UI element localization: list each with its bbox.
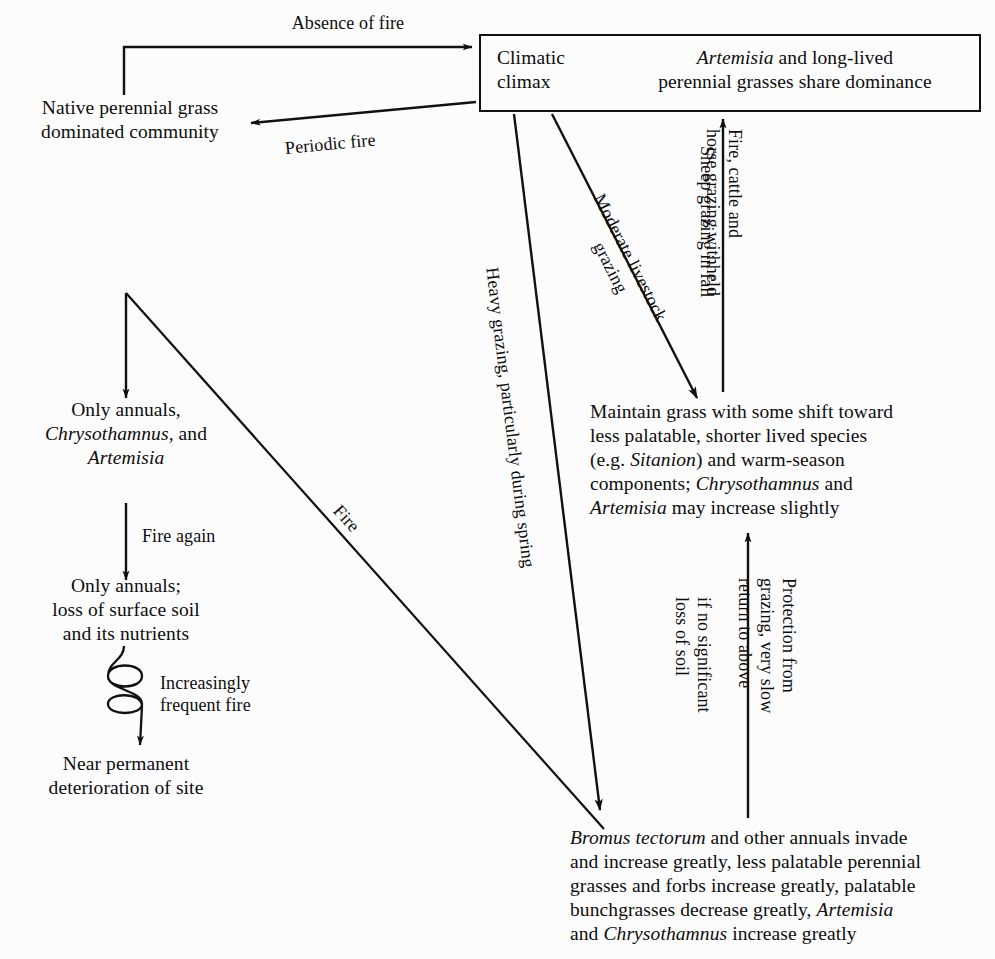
- edge-label-increasingly-frequent-fire: Increasingly frequent fire: [160, 672, 251, 716]
- near-permanent-deterioration-node: Near permanent deterioration of site: [6, 752, 246, 800]
- diagram-canvas: Climatic climax Artemisia and long-lived…: [0, 0, 995, 959]
- bromus-line3: grasses and forbs increase greatly, pala…: [570, 875, 915, 896]
- bromus-tectorum-italic: Bromus tectorum: [570, 827, 706, 848]
- climax-desc-line2: perennial grasses share dominance: [658, 71, 931, 92]
- climatic-climax-description: Artemisia and long-livedperennial grasse…: [620, 46, 970, 94]
- maintain-line1: Maintain grass with some shift toward: [590, 401, 893, 422]
- only-annuals-line1: Only annuals,: [71, 399, 181, 420]
- only-annuals-soil-loss-node: Only annuals; loss of surface soil and i…: [10, 574, 242, 646]
- edge-increasingly-frequent-fire: [108, 646, 142, 745]
- maintain-line3-a: (e.g.: [590, 449, 630, 470]
- climatic-climax-label: Climatic climax: [497, 46, 607, 94]
- sitanion-italic: Sitanion: [630, 449, 696, 470]
- chrysothamnus-italic-3: Chrysothamnus: [603, 923, 727, 944]
- maintain-line3-b: ) and warm-season: [696, 449, 845, 470]
- chrysothamnus-italic: Chrysothamnus: [45, 423, 169, 444]
- bromus-line4-a: bunchgrasses decrease greatly,: [570, 899, 817, 920]
- artemisia-italic-2: Artemisia: [88, 447, 165, 468]
- edge-absence-of-fire: [124, 47, 472, 95]
- edge-label-fire-cattle-horse-withheld: Fire, cattle and horse grazing withheld: [702, 129, 746, 296]
- bromus-tectorum-node: Bromus tectorum and other annuals invade…: [570, 826, 995, 946]
- edge-label-fire-again: Fire again: [142, 525, 215, 547]
- edge-label-protection-from-grazing: Protection from grazing, very slow retur…: [734, 578, 800, 713]
- edge-label-absence-of-fire: Absence of fire: [238, 12, 458, 34]
- bromus-line5-a: and: [570, 923, 603, 944]
- only-annuals-line2-rest: , and: [169, 423, 207, 444]
- edge-label-moderate-livestock-grazing: Moderate livestock grazing: [549, 150, 693, 375]
- edge-label-fire: Fire: [329, 500, 365, 537]
- bromus-line2: and increase greatly, less palatable per…: [570, 851, 921, 872]
- edge-label-if-no-significant-loss: if no significant loss of soil: [671, 597, 715, 713]
- maintain-grass-node: Maintain grass with some shift towardles…: [590, 400, 990, 520]
- artemisia-italic-3: Artemisia: [590, 497, 667, 518]
- only-annuals-chrysothamnus-node: Only annuals,Chrysothamnus, andArtemisia: [10, 398, 242, 470]
- maintain-line4-b: and: [819, 473, 852, 494]
- edge-label-heavy-grazing-spring: Heavy grazing, particularly during sprin…: [481, 266, 540, 569]
- maintain-line4-a: components;: [590, 473, 696, 494]
- chrysothamnus-italic-2: Chrysothamnus: [696, 473, 820, 494]
- edge-label-periodic-fire: Periodic fire: [284, 128, 376, 158]
- maintain-line2: less palatable, shorter lived species: [590, 425, 867, 446]
- bromus-line1-rest: and other annuals invade: [706, 827, 908, 848]
- artemisia-italic: Artemisia: [697, 47, 774, 68]
- artemisia-italic-4: Artemisia: [817, 899, 894, 920]
- climax-desc-line1-rest: and long-lived: [774, 47, 894, 68]
- edge-periodic-fire: [251, 102, 476, 123]
- maintain-line5-rest: may increase slightly: [667, 497, 840, 518]
- native-perennial-grass-node: Native perennial grass dominated communi…: [14, 96, 246, 144]
- bromus-line5-b: increase greatly: [727, 923, 856, 944]
